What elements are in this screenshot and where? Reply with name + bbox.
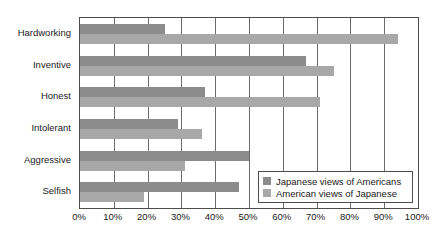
bar	[80, 129, 202, 139]
bar	[80, 192, 144, 202]
legend-swatch-icon	[263, 177, 271, 185]
bar	[80, 97, 320, 107]
x-axis-tick-label: 20%	[137, 211, 156, 222]
bar-group	[80, 56, 418, 76]
y-axis-labels: HardworkingInventiveHonestIntolerantAggr…	[0, 17, 75, 207]
chart-page: HardworkingInventiveHonestIntolerantAggr…	[0, 0, 447, 242]
bar-group	[80, 119, 418, 139]
bar	[80, 182, 239, 192]
legend-label: Japanese views of Americans	[276, 176, 401, 187]
chart-legend: Japanese views of AmericansAmerican view…	[258, 171, 413, 203]
bar	[80, 66, 334, 76]
bar	[80, 161, 185, 171]
x-axis-tick-label: 40%	[205, 211, 224, 222]
y-axis-tick-label: Hardworking	[18, 28, 71, 38]
x-axis-tick-label: 70%	[306, 211, 325, 222]
bar	[80, 119, 178, 129]
y-axis-tick-label: Inventive	[33, 60, 71, 70]
y-axis-tick-label: Intolerant	[31, 123, 71, 133]
x-axis-tick-label: 50%	[238, 211, 257, 222]
y-axis-tick-label: Honest	[41, 91, 71, 101]
x-axis-labels: 0%10%20%30%40%50%60%70%80%90%100%	[79, 211, 417, 227]
legend-item: American views of Japanese	[263, 187, 408, 199]
bar	[80, 34, 398, 44]
x-axis-tick-label: 10%	[103, 211, 122, 222]
x-axis-tick-label: 0%	[72, 211, 86, 222]
bar-group	[80, 151, 418, 171]
legend-item: Japanese views of Americans	[263, 175, 408, 187]
x-axis-tick-label: 80%	[340, 211, 359, 222]
x-axis-tick-label: 100%	[405, 211, 429, 222]
bar	[80, 24, 165, 34]
x-axis-tick-label: 30%	[171, 211, 190, 222]
bar-group	[80, 87, 418, 107]
bar	[80, 87, 205, 97]
x-axis-tick-label: 60%	[272, 211, 291, 222]
bar	[80, 151, 249, 161]
y-axis-tick-label: Aggressive	[24, 155, 71, 165]
y-axis-tick-label: Selfish	[42, 186, 71, 196]
bar	[80, 56, 306, 66]
legend-label: American views of Japanese	[276, 188, 397, 199]
legend-swatch-icon	[263, 189, 271, 197]
x-axis-tick-label: 90%	[374, 211, 393, 222]
bar-group	[80, 24, 418, 44]
